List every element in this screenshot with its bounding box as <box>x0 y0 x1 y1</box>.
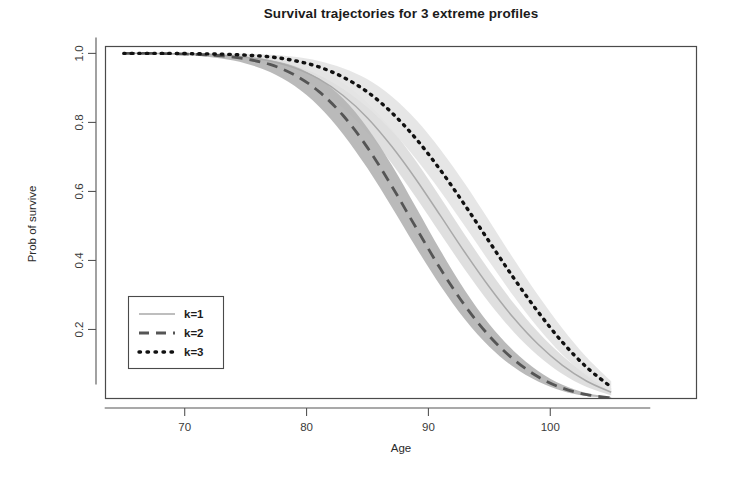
legend-label-k1: k=1 <box>184 308 204 320</box>
x-tick-label: 90 <box>422 421 435 433</box>
legend-label-k3: k=3 <box>184 346 204 358</box>
x-tick-label: 100 <box>541 421 560 433</box>
y-tick-label: 0.2 <box>74 321 86 337</box>
y-axis-title: Prob of survive <box>26 186 38 263</box>
survival-plot: Survival trajectories for 3 extreme prof… <box>0 0 753 482</box>
y-tick-label: 0.6 <box>74 183 86 199</box>
y-tick-label: 0.8 <box>74 114 86 130</box>
legend[interactable]: k=1 k=2 k=3 <box>129 297 224 369</box>
figure-background <box>0 0 753 482</box>
x-tick-label: 80 <box>300 421 313 433</box>
y-tick-label: 0.4 <box>74 252 86 269</box>
page-title: Survival trajectories for 3 extreme prof… <box>264 6 539 21</box>
chart-figure: Survival trajectories for 3 extreme prof… <box>0 0 753 482</box>
x-axis-title: Age <box>391 442 411 454</box>
x-tick-label: 70 <box>178 421 191 433</box>
legend-label-k2: k=2 <box>184 327 204 339</box>
y-tick-label: 1.0 <box>74 45 86 61</box>
